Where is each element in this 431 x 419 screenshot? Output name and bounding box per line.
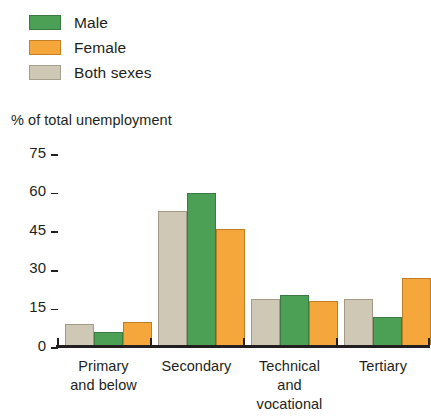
bar-groups [57, 0, 430, 345]
bar-group-primary-and-below [57, 0, 150, 345]
bar-technical-male [280, 295, 309, 345]
bar-primary-female [123, 322, 152, 345]
category-label-primary-and-below: Primary and below [57, 357, 150, 395]
x-tick-mark-icon [336, 338, 338, 345]
x-tick-mark-icon [150, 338, 152, 345]
x-axis-category-labels: Primary and below Secondary Technical an… [57, 357, 430, 419]
category-label-tertiary: Tertiary [336, 357, 430, 376]
y-axis: 75 60 45 30 15 0 [10, 0, 58, 419]
category-label-secondary: Secondary [150, 357, 243, 376]
x-axis-baseline [56, 345, 430, 348]
bar-tertiary-both-sexes [344, 299, 373, 345]
bar-secondary-both-sexes [158, 211, 187, 345]
bar-tertiary-female [402, 278, 431, 345]
bar-technical-female [309, 301, 338, 345]
bar-group-secondary [150, 0, 243, 345]
bar-primary-male [94, 332, 123, 345]
bar-secondary-female [216, 229, 245, 345]
x-tick-mark-icon [243, 338, 245, 345]
bar-technical-both-sexes [251, 299, 280, 345]
x-tick-mark-icon [57, 338, 59, 345]
bar-primary-both-sexes [65, 324, 94, 345]
bar-group-technical-and-vocational [243, 0, 336, 345]
bar-tertiary-male [373, 317, 402, 345]
bar-secondary-male [187, 193, 216, 345]
x-tick-mark-icon [428, 338, 430, 345]
category-label-technical-and-vocational: Technical and vocational [243, 357, 336, 414]
bar-group-tertiary [336, 0, 430, 345]
